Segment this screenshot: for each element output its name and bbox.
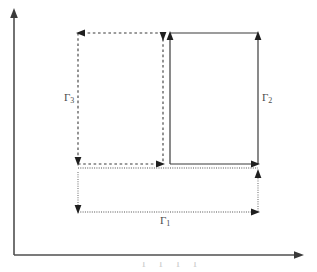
region-gamma1 xyxy=(78,168,258,212)
label-gamma1-subscript: 1 xyxy=(166,219,170,228)
caption-cutoff-text: Γ Γ Γ Γ xyxy=(142,262,204,269)
gamma3-arrowheads xyxy=(75,30,167,168)
figure-canvas: Γ3 Γ2 Γ1 Γ Γ Γ Γ xyxy=(0,0,317,272)
label-gamma2: Γ2 xyxy=(262,92,272,103)
diagram-svg xyxy=(0,0,317,272)
axes-group xyxy=(10,8,304,259)
gamma2-arrowheads xyxy=(167,31,262,167)
gamma3-top-left-arrowhead xyxy=(76,30,85,37)
gamma2-bottom-right-arrowhead xyxy=(251,161,260,168)
label-gamma1: Γ1 xyxy=(160,215,170,226)
label-gamma3: Γ3 xyxy=(64,92,74,103)
vertical-axis-arrowhead xyxy=(10,8,18,18)
gamma1-arrowheads xyxy=(75,169,262,215)
caption-cutoff-strip: Γ Γ Γ Γ xyxy=(0,262,317,272)
region-gamma2 xyxy=(170,33,258,164)
gamma1-right-up-arrowhead xyxy=(255,169,262,178)
label-gamma2-subscript: 2 xyxy=(268,96,272,105)
gamma2-top-right-up-arrowhead xyxy=(255,31,262,40)
gamma3-top-right-down-arrowhead xyxy=(160,32,167,41)
gamma3-bottom-left-down-arrowhead xyxy=(75,157,82,166)
gamma2-top-left-up-arrowhead xyxy=(167,31,174,40)
gamma1-bottom-right-arrowhead xyxy=(251,209,260,216)
horizontal-axis-arrowhead xyxy=(294,251,304,259)
gamma3-bottom-right-arrowhead xyxy=(156,161,165,168)
label-gamma3-subscript: 3 xyxy=(70,96,74,105)
region-gamma3 xyxy=(78,33,163,164)
